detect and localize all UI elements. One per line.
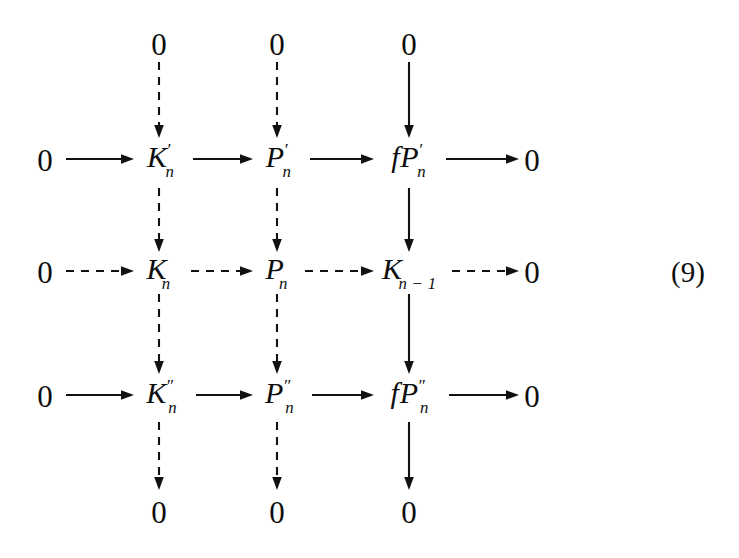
node-bottom-zero-col2: 0 — [269, 497, 285, 528]
node-subscript: n — [285, 398, 294, 417]
node-K-n: Kn — [147, 254, 176, 290]
node-superscript: ′ — [166, 139, 169, 159]
arrow-row2-Kn-to-Pn — [191, 266, 253, 276]
node-subscript: n — [168, 398, 177, 417]
arrow-row1-fPn-prime-to-zero — [446, 154, 519, 164]
arrow-row3-Pn-dprime-to-fPn-dprime — [312, 390, 374, 400]
node-base: P — [400, 140, 419, 173]
node-superscript: ″ — [166, 375, 173, 395]
arrow-row2-Pn-to-Kn-minus-1 — [305, 266, 374, 276]
arrow-col3-Kn-minus-1-to-fPn-dprime — [404, 294, 414, 374]
node-prefix: f — [390, 376, 399, 409]
node-base: P — [265, 376, 284, 409]
equation-number-tag: (9) — [671, 258, 705, 287]
arrow-row3-zero-to-Kn-dprime — [66, 390, 134, 400]
node-subscript: n — [420, 398, 429, 417]
node-subscript: n — [283, 162, 292, 181]
node-K-prime-n: K′n — [147, 142, 179, 178]
arrow-col3-zero-to-fPn-prime — [404, 62, 414, 138]
arrow-row3-fPn-dprime-to-zero — [449, 390, 519, 400]
node-row1-right-zero: 0 — [524, 145, 540, 176]
arrow-row1-zero-to-Kn-prime — [66, 154, 134, 164]
arrow-row2-Kn-minus-1-to-zero — [452, 266, 519, 276]
node-superscript: ′ — [284, 139, 287, 159]
node-prefix: f — [391, 140, 400, 173]
node-subscript: n − 1 — [398, 274, 436, 293]
node-base: P — [266, 140, 285, 173]
node-subscript: n — [279, 274, 288, 293]
node-subscript: n — [417, 162, 426, 181]
arrow-row2-zero-to-Kn — [66, 266, 134, 276]
node-top-zero-col2: 0 — [269, 29, 285, 60]
arrow-col2-Pn-dprime-to-zero — [272, 422, 282, 490]
arrow-col1-Kn-prime-to-Kn — [154, 188, 164, 252]
node-superscript: ′ — [418, 139, 421, 159]
node-row1-left-zero: 0 — [37, 145, 53, 176]
arrow-col2-Pn-to-Pn-dprime — [272, 294, 282, 374]
arrow-col2-Pn-prime-to-Pn — [272, 188, 282, 252]
node-row2-right-zero: 0 — [524, 257, 540, 288]
node-K-dprime-n: K″n — [146, 378, 182, 414]
node-bottom-zero-col1: 0 — [151, 497, 167, 528]
arrow-col3-fPn-prime-to-Kn-minus-1 — [404, 188, 414, 252]
node-bottom-zero-col3: 0 — [401, 497, 417, 528]
arrow-col3-fPn-dprime-to-zero — [404, 422, 414, 490]
node-fP-dprime-n: fP″n — [390, 378, 433, 414]
node-fP-prime-n: fP′n — [391, 142, 431, 178]
node-K-n-minus-1: Kn − 1 — [382, 254, 440, 290]
node-base: K — [147, 140, 167, 173]
node-superscript: ″ — [283, 375, 290, 395]
node-subscript: n — [165, 162, 174, 181]
node-P-dprime-n: P″n — [265, 378, 299, 414]
node-top-zero-col3: 0 — [401, 29, 417, 60]
arrow-col2-zero-to-Pn-prime — [272, 62, 282, 138]
arrow-row3-Kn-dprime-to-Pn-dprime — [196, 390, 253, 400]
node-top-zero-col1: 0 — [151, 29, 167, 60]
node-superscript: ″ — [417, 375, 424, 395]
arrow-col1-Kn-to-Kn-dprime — [154, 294, 164, 374]
arrow-layer — [0, 0, 739, 558]
node-row2-left-zero: 0 — [37, 257, 53, 288]
node-base: P — [400, 376, 419, 409]
arrow-col1-zero-to-Kn-prime — [154, 62, 164, 138]
arrow-row1-Pn-prime-to-fPn-prime — [310, 154, 374, 164]
node-row3-right-zero: 0 — [524, 381, 540, 412]
node-P-prime-n: P′n — [266, 142, 296, 178]
commutative-diagram-figure: 0 0 0 0 K′n P′n fP′n 0 0 Kn Pn Kn − 1 0 … — [0, 0, 739, 558]
node-P-n: Pn — [265, 254, 292, 290]
node-base: K — [146, 376, 166, 409]
node-subscript: n — [162, 274, 171, 293]
arrow-row1-Kn-prime-to-Pn-prime — [193, 154, 253, 164]
arrow-col1-Kn-dprime-to-zero — [154, 422, 164, 490]
node-row3-left-zero: 0 — [37, 381, 53, 412]
